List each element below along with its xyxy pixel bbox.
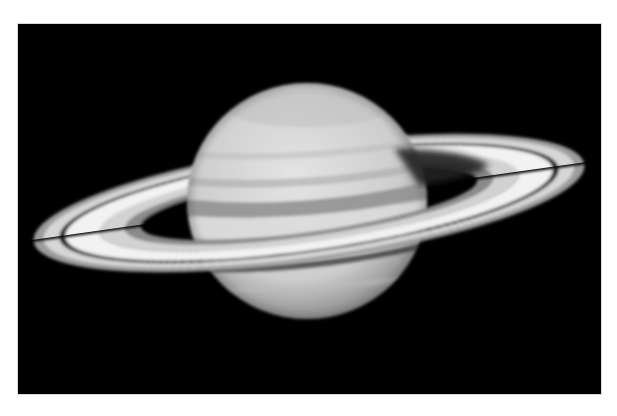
planet-body	[181, 83, 431, 319]
saturn-image	[17, 23, 602, 395]
saturn-photo-frame: Saturn	[17, 23, 602, 395]
